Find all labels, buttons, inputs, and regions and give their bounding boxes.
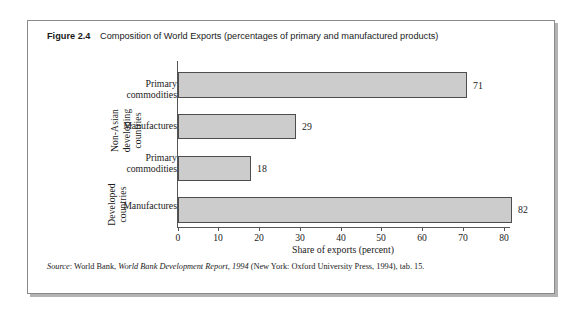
bar-value-developed-primary-commodities: 18 xyxy=(257,163,267,174)
bar-value-non-asian-manufactures: 29 xyxy=(302,121,312,132)
x-tick-30 xyxy=(300,227,301,231)
x-tick-label-70: 70 xyxy=(450,232,476,243)
source-note: Source: World Bank, World Bank Developme… xyxy=(47,261,542,272)
x-tick-label-40: 40 xyxy=(328,232,354,243)
x-tick-label-50: 50 xyxy=(368,232,394,243)
x-tick-0 xyxy=(178,227,179,231)
bar-developed-manufactures xyxy=(178,197,512,223)
bar-label-line: commodities xyxy=(89,163,177,174)
x-axis-line xyxy=(177,227,510,228)
bar-chart: Non-Asian developing countries Developed… xyxy=(28,21,556,295)
x-tick-label-20: 20 xyxy=(246,232,272,243)
source-prefix: : World Bank, xyxy=(70,262,119,271)
x-tick-label-60: 60 xyxy=(409,232,435,243)
figure-panel: Figure 2.4 Composition of World Exports … xyxy=(27,20,555,294)
x-tick-60 xyxy=(422,227,423,231)
bar-label-line: commodities xyxy=(89,89,177,100)
bar-label-line: Primary xyxy=(89,78,177,89)
x-tick-label-30: 30 xyxy=(287,232,313,243)
bar-non-asian-primary-commodities xyxy=(178,72,467,98)
source-suffix: (New York: Oxford University Press, 1994… xyxy=(249,262,425,271)
x-tick-label-80: 80 xyxy=(491,232,517,243)
bar-label-line: Primary xyxy=(89,152,177,163)
source-word: Source xyxy=(47,262,70,271)
x-tick-50 xyxy=(381,227,382,231)
x-tick-label-0: 0 xyxy=(165,232,191,243)
x-tick-80 xyxy=(504,227,505,231)
bar-label-line: Manufactures xyxy=(89,200,177,211)
bar-value-developed-manufactures: 82 xyxy=(518,204,528,215)
x-tick-label-10: 10 xyxy=(205,232,231,243)
source-title: World Bank Development Report, 1994 xyxy=(118,262,248,271)
bar-label-non-asian-manufactures: Manufactures xyxy=(89,120,177,131)
bar-label-developed-manufactures: Manufactures xyxy=(89,200,177,211)
bar-label-line: Manufactures xyxy=(89,120,177,131)
bar-value-non-asian-primary-commodities: 71 xyxy=(473,80,483,91)
bar-developed-primary-commodities xyxy=(178,156,251,181)
x-axis-title: Share of exports (percent) xyxy=(233,244,453,255)
x-tick-40 xyxy=(341,227,342,231)
x-tick-20 xyxy=(259,227,260,231)
x-tick-10 xyxy=(218,227,219,231)
bar-label-developed-primary-commodities: Primary commodities xyxy=(89,152,177,174)
bar-non-asian-manufactures xyxy=(178,114,296,139)
bar-label-non-asian-primary-commodities: Primary commodities xyxy=(89,78,177,100)
x-tick-70 xyxy=(463,227,464,231)
